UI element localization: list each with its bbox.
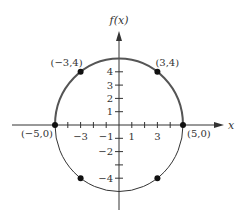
- x-axis-arrow: [214, 122, 224, 128]
- data-point: [78, 175, 84, 181]
- y-tick-label: 4: [107, 66, 113, 77]
- data-point: [180, 122, 186, 128]
- y-tick-label: −2: [98, 146, 113, 157]
- data-point: [154, 175, 160, 181]
- x-tick-label: −3: [73, 131, 88, 142]
- y-axis-label: f(x): [109, 14, 129, 27]
- point-label: (−5,0): [21, 128, 53, 139]
- x-tick-label: 3: [154, 131, 160, 142]
- y-tick-label: 1: [107, 106, 113, 117]
- data-point: [154, 69, 160, 75]
- y-tick-label: 3: [107, 80, 113, 91]
- point-label: (−3,4): [51, 57, 83, 68]
- y-axis-arrow: [116, 31, 122, 41]
- point-label: (3,4): [155, 57, 179, 68]
- x-tick-label: 1: [129, 131, 135, 142]
- data-point: [78, 69, 84, 75]
- point-label: (5,0): [187, 128, 211, 139]
- y-tick-label: −4: [98, 173, 113, 184]
- x-axis-label: x: [228, 119, 235, 132]
- x-tick-label: −1: [99, 131, 114, 142]
- semicircle-graph: xf(x)−3−1134321−2−4(−3,4)(3,4)(−5,0)(5,0…: [0, 0, 240, 217]
- y-tick-label: 2: [107, 93, 113, 104]
- labels: xf(x)−3−1134321−2−4(−3,4)(3,4)(−5,0)(5,0…: [21, 14, 235, 184]
